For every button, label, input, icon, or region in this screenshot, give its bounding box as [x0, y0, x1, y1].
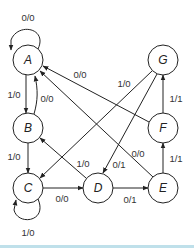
node-B: B — [13, 113, 43, 143]
node-E: E — [148, 173, 178, 203]
edge-F-A — [43, 66, 149, 122]
edge-label-F-A: 0/0 — [73, 69, 86, 80]
node-A: A — [13, 45, 43, 75]
edge-label-E-A: 0/0 — [131, 148, 144, 159]
svg-text:G: G — [158, 53, 167, 67]
edge-label-B-C: 1/0 — [7, 151, 20, 162]
edge-label-E-F: 1/1 — [169, 153, 182, 164]
edge-label-D-E: 0/1 — [123, 194, 136, 205]
svg-text:D: D — [94, 181, 103, 195]
edge-label-A-B: 1/0 — [7, 89, 20, 100]
edge-label-B-A: 0/0 — [40, 93, 53, 104]
svg-text:F: F — [159, 121, 167, 135]
edge-label-C-D: 0/0 — [55, 193, 68, 204]
svg-text:E: E — [159, 181, 168, 195]
edge-label-C-C: 1/0 — [21, 227, 34, 238]
svg-text:C: C — [24, 181, 33, 195]
node-F: F — [148, 113, 178, 143]
node-G: G — [148, 45, 178, 75]
svg-text:A: A — [23, 53, 32, 67]
edge-label-D-B: 1/0 — [76, 158, 89, 169]
edge-label-A-A: 0/0 — [21, 12, 34, 23]
svg-text:B: B — [24, 121, 32, 135]
state-diagram: 0/0 1/0 0/0 1/0 1/0 0/0 0/1 1/1 1/1 0/0 … — [0, 0, 194, 248]
edge-label-F-G: 1/1 — [169, 93, 182, 104]
node-C: C — [13, 173, 43, 203]
edge-label-G-D: 0/1 — [112, 159, 125, 170]
nodes: A B C D E F G — [13, 45, 178, 203]
edge-B-A — [34, 76, 37, 114]
node-D: D — [83, 173, 113, 203]
edge-label-G-C: 1/0 — [117, 78, 130, 89]
